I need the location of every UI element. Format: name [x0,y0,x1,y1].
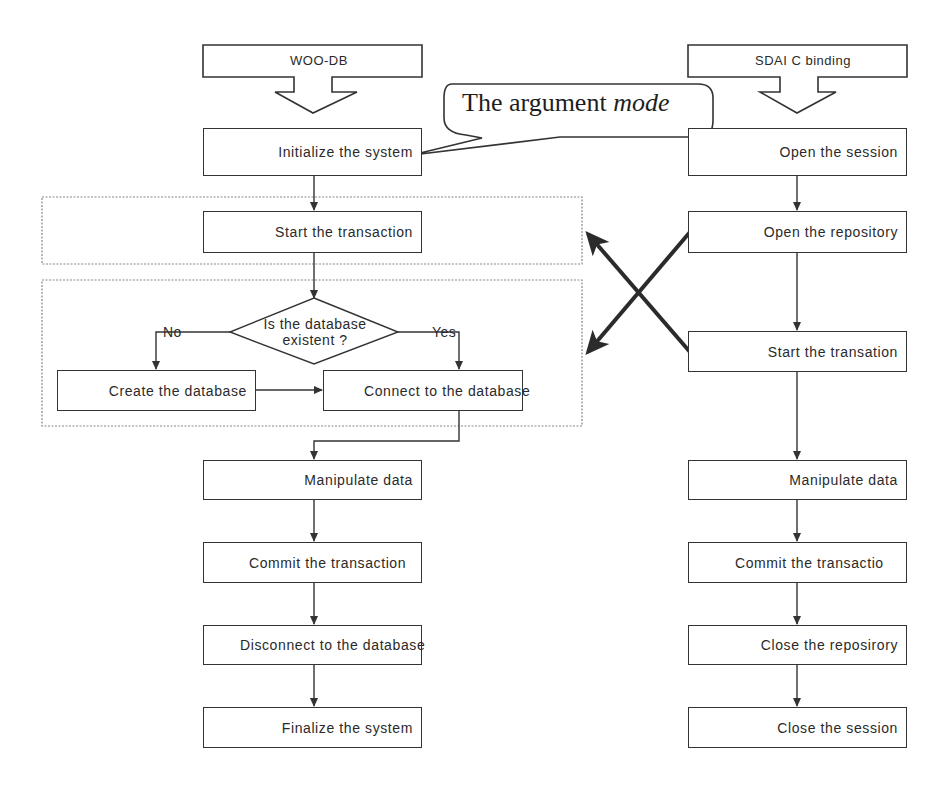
sdai-header-label: SDAI C binding [755,53,851,68]
step-close-repository: Close the reposirory [688,625,907,665]
decision-text: Is the database existent ? [250,316,380,348]
step-start-transation: Start the transation [688,331,907,372]
step-initialize-system: Initialize the system [203,128,422,176]
callout-text: The argument mode [462,88,669,118]
step-open-session: Open the session [688,128,907,176]
woo-db-header-label: WOO-DB [290,53,348,68]
step-commit-transaction-left: Commit the transaction [203,542,422,583]
step-connect-database: Connect to the database [323,370,523,411]
step-open-repository: Open the repository [688,211,907,253]
decision-yes-label: Yes [432,324,456,340]
step-close-session: Close the session [688,707,907,748]
step-manipulate-data-right: Manipulate data [688,460,907,500]
step-disconnect-database: Disconnect to the database [203,625,422,665]
decision-no-label: No [163,324,182,340]
callout-italic-word: mode [613,88,669,117]
step-commit-transaction-right: Commit the transactio [688,542,907,583]
step-manipulate-data-left: Manipulate data [203,460,422,500]
step-create-database: Create the database [57,370,256,411]
step-finalize-system: Finalize the system [203,707,422,748]
step-start-transaction: Start the transaction [203,211,422,253]
